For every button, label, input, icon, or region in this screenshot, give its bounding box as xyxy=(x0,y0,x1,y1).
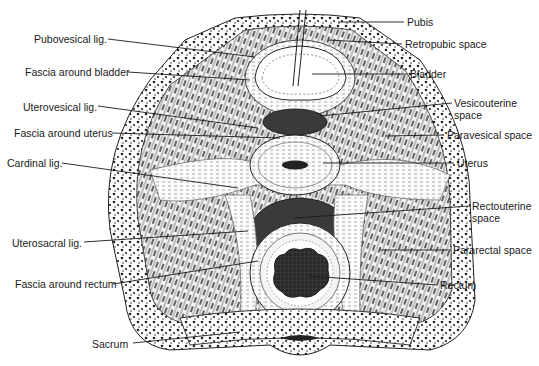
label-fascia-around-uterus: Fascia around uterus xyxy=(14,127,113,139)
label-fascia-around-bladder: Fascia around bladder xyxy=(25,66,129,78)
label-cardinal-ligament: Cardinal lig. xyxy=(7,157,62,169)
label-bladder: Bladder xyxy=(410,68,446,80)
rectum-lumen xyxy=(274,248,329,297)
label-uterovesical-ligament: Uterovesical lig. xyxy=(23,101,97,113)
label-rectum: Rectum xyxy=(440,279,476,291)
uterine-cavity xyxy=(282,161,308,170)
pelvis-illustration xyxy=(0,0,539,366)
label-uterus: Uterus xyxy=(457,157,488,169)
label-retropubic-space: Retropubic space xyxy=(405,38,487,50)
label-vesicouterine-space: Vesicouterine space xyxy=(454,97,514,121)
label-pubovesical-ligament: Pubovesical lig. xyxy=(34,33,107,45)
label-fascia-around-rectum: Fascia around rectum xyxy=(15,278,117,290)
label-uterosacral-ligament: Uterosacral lig. xyxy=(12,237,82,249)
pelvis-diagram: Pubovesical lig. Fascia around bladder U… xyxy=(0,0,539,366)
label-sacrum: Sacrum xyxy=(92,338,128,350)
label-pararectal-space: Pararectal space xyxy=(453,244,532,256)
vesicouterine-space xyxy=(263,109,327,135)
label-pubis: Pubis xyxy=(407,16,433,28)
label-paravesical-space: Paravesical space xyxy=(447,129,532,141)
label-rectouterine-space: Rectouterine space xyxy=(472,200,532,224)
